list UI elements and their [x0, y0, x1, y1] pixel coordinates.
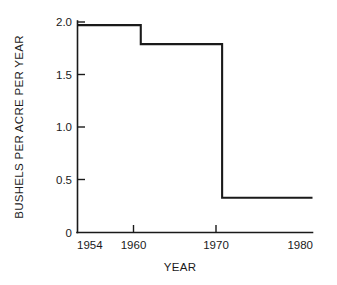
chart-figure: 2.0 1.5 1.0 0.5 0 1954 1960 1970 1980 YE…	[0, 0, 337, 285]
y-axis-title: BUSHELS PER ACRE PER YEAR	[13, 35, 25, 219]
x-tick-label-2: 1970	[203, 239, 229, 251]
x-tick-label-1: 1960	[121, 239, 147, 251]
chart-canvas: 2.0 1.5 1.0 0.5 0 1954 1960 1970 1980 YE…	[0, 0, 337, 285]
y-tick-label-3: 1.5	[56, 69, 72, 81]
y-tick-label-4: 2.0	[56, 16, 72, 28]
y-tick-label-1: 0.5	[56, 174, 72, 186]
x-tick-label-3: 1980	[287, 239, 313, 251]
x-axis-title: YEAR	[164, 261, 197, 273]
x-tick-label-0: 1954	[77, 239, 103, 251]
y-tick-label-0: 0	[66, 227, 72, 239]
y-tick-label-2: 1.0	[56, 121, 72, 133]
